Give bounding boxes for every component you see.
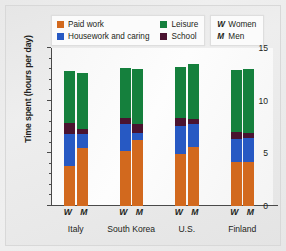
legend-column-left: Paid work Housework and caring bbox=[57, 20, 149, 41]
bar-group-finland bbox=[231, 48, 255, 206]
bar-u-s-w[interactable] bbox=[175, 67, 186, 206]
legend-label-housework: Housework and caring bbox=[68, 32, 149, 41]
bar-segment-paid-work bbox=[120, 151, 131, 206]
bar-segment-school bbox=[132, 124, 143, 133]
bar-group-u-s bbox=[175, 48, 199, 206]
x-sex-labels: WM bbox=[44, 207, 108, 218]
bar-segment-paid-work bbox=[243, 162, 254, 206]
legend-column-right: Leisure School bbox=[160, 20, 198, 41]
legend-key-women: W Women bbox=[217, 20, 256, 29]
bar-segment-school bbox=[175, 118, 186, 126]
bar-segment-housework-and-caring bbox=[64, 134, 75, 166]
bar-segment-paid-work bbox=[175, 154, 186, 206]
x-sex-label-w: W bbox=[118, 207, 129, 218]
legend-swatch-paid-work-icon bbox=[57, 21, 64, 28]
bar-segment-housework-and-caring bbox=[175, 126, 186, 154]
x-group-label-u-s: WMU.S. bbox=[155, 207, 219, 235]
bar-segment-paid-work bbox=[77, 148, 88, 206]
legend-series-box: Paid work Housework and caring Leisure S… bbox=[51, 15, 205, 46]
legend-label-leisure: Leisure bbox=[171, 20, 198, 29]
bar-south-korea-m[interactable] bbox=[132, 69, 143, 206]
legend: Paid work Housework and caring Leisure S… bbox=[51, 15, 264, 46]
legend-label-school: School bbox=[171, 32, 196, 41]
bar-series-container bbox=[51, 48, 273, 206]
bar-finland-m[interactable] bbox=[243, 69, 254, 206]
bar-segment-housework-and-caring bbox=[77, 134, 88, 148]
x-category-name: U.S. bbox=[155, 224, 219, 235]
x-sex-label-m: M bbox=[245, 207, 256, 218]
plot-area: 051015 bbox=[51, 48, 273, 206]
bar-group-italy bbox=[64, 48, 88, 206]
bar-italy-w[interactable] bbox=[64, 71, 75, 206]
legend-key-letter-w: W bbox=[217, 20, 224, 29]
bar-segment-leisure bbox=[231, 70, 242, 132]
x-axis-labels: WMItalyWMSouth KoreaWMU.S.WMFinland bbox=[51, 207, 273, 251]
bar-segment-housework-and-caring bbox=[231, 139, 242, 162]
y-axis-title: Time spent (hours per day) bbox=[23, 24, 33, 154]
legend-item-housework: Housework and caring bbox=[57, 32, 149, 41]
x-group-label-finland: WMFinland bbox=[211, 207, 275, 235]
x-sex-labels: WM bbox=[100, 207, 164, 218]
legend-key-box: W Women M Men bbox=[210, 15, 264, 46]
x-sex-label-m: M bbox=[134, 207, 145, 218]
legend-key-label-men: Men bbox=[228, 32, 244, 41]
bar-finland-w[interactable] bbox=[231, 70, 242, 206]
bar-segment-school bbox=[64, 123, 75, 135]
x-group-label-italy: WMItaly bbox=[44, 207, 108, 235]
x-group-label-south-korea: WMSouth Korea bbox=[100, 207, 164, 235]
bar-segment-leisure bbox=[132, 69, 143, 124]
x-category-name: Finland bbox=[211, 224, 275, 235]
legend-item-school: School bbox=[160, 32, 198, 41]
bar-segment-housework-and-caring bbox=[243, 138, 254, 162]
legend-swatch-school-icon bbox=[160, 33, 167, 40]
bar-segment-paid-work bbox=[188, 147, 199, 206]
figure: Paid work Housework and caring Leisure S… bbox=[0, 0, 286, 251]
x-sex-labels: WM bbox=[155, 207, 219, 218]
bar-segment-leisure bbox=[175, 67, 186, 118]
bar-segment-paid-work bbox=[132, 140, 143, 206]
legend-key-label-women: Women bbox=[228, 20, 256, 29]
x-sex-label-w: W bbox=[229, 207, 240, 218]
legend-swatch-housework-icon bbox=[57, 33, 64, 40]
legend-key-letter-m: M bbox=[217, 32, 224, 41]
bar-segment-leisure bbox=[120, 68, 131, 118]
bar-segment-leisure bbox=[64, 71, 75, 123]
bar-italy-m[interactable] bbox=[77, 73, 88, 206]
legend-key-men: M Men bbox=[217, 32, 256, 41]
figure-inner: Paid work Housework and caring Leisure S… bbox=[5, 5, 281, 246]
bar-segment-leisure bbox=[188, 64, 199, 119]
bar-group-south-korea bbox=[120, 48, 144, 206]
bar-segment-housework-and-caring bbox=[120, 124, 131, 151]
x-sex-label-m: M bbox=[78, 207, 89, 218]
x-sex-label-w: W bbox=[62, 207, 73, 218]
bar-u-s-m[interactable] bbox=[188, 64, 199, 206]
x-sex-label-m: M bbox=[189, 207, 200, 218]
bar-segment-paid-work bbox=[64, 166, 75, 206]
legend-label-paid-work: Paid work bbox=[68, 20, 104, 29]
bar-segment-leisure bbox=[243, 69, 254, 133]
x-category-name: Italy bbox=[44, 224, 108, 235]
x-sex-labels: WM bbox=[211, 207, 275, 218]
legend-swatch-leisure-icon bbox=[160, 21, 167, 28]
legend-item-leisure: Leisure bbox=[160, 20, 198, 29]
x-sex-label-w: W bbox=[173, 207, 184, 218]
x-category-name: South Korea bbox=[100, 224, 164, 235]
bar-segment-housework-and-caring bbox=[188, 124, 199, 147]
bar-south-korea-w[interactable] bbox=[120, 68, 131, 206]
bar-segment-leisure bbox=[77, 73, 88, 129]
bar-segment-paid-work bbox=[231, 162, 242, 206]
legend-item-paid-work: Paid work bbox=[57, 20, 149, 29]
